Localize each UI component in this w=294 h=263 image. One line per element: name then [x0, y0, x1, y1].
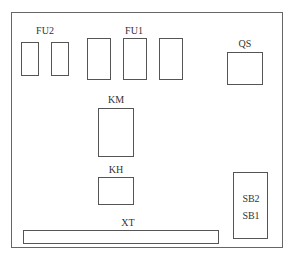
sb1-label: SB1 — [242, 210, 259, 221]
km-label: KM — [108, 94, 124, 105]
qs-label: QS — [239, 38, 252, 49]
xt-terminal-block — [23, 230, 219, 244]
fu1-fuse-2 — [123, 38, 147, 80]
fu2-fuse-1 — [21, 42, 39, 76]
kh-label: KH — [109, 164, 123, 175]
sb-button-station — [233, 172, 268, 239]
fu2-fuse-2 — [51, 42, 69, 76]
fu1-fuse-3 — [159, 38, 183, 80]
xt-label: XT — [121, 217, 134, 228]
fu1-fuse-1 — [87, 38, 111, 80]
fu2-label: FU2 — [36, 25, 54, 36]
fu1-label: FU1 — [125, 25, 143, 36]
qs-switch — [227, 52, 263, 85]
km-contactor — [98, 108, 134, 157]
sb2-label: SB2 — [242, 193, 259, 204]
kh-relay — [98, 177, 134, 205]
